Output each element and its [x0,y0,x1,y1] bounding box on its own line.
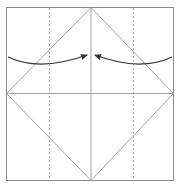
paper-square [7,8,174,181]
origami-diagram [0,0,182,186]
